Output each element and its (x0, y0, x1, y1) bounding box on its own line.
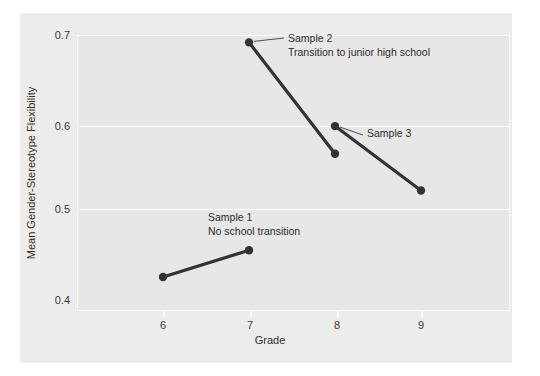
annotation-sample-3-title: Sample 3 (367, 127, 411, 141)
annotation-sample-2-subtitle: Transition to junior high school (288, 46, 430, 60)
annotation-sample-1-subtitle: No school transition (208, 225, 300, 239)
y-tick-label-0-4: 0.4 (18, 295, 70, 306)
x-tick-label-8: 8 (317, 320, 357, 331)
plot-area (77, 35, 510, 311)
chart-figure: 0.7 0.6 0.5 0.4 Mean Gender-Stereotype F… (0, 0, 540, 376)
y-tick-label-0-7: 0.7 (18, 30, 70, 41)
annotation-sample-3: Sample 3 (367, 127, 411, 141)
y-axis-title: Mean Gender-Stereotype Flexibility (25, 87, 37, 259)
annotation-sample-1-title: Sample 1 (208, 211, 300, 225)
x-tick-label-9: 9 (401, 320, 441, 331)
annotation-sample-2: Sample 2 Transition to junior high schoo… (288, 32, 430, 59)
x-tick-label-6: 6 (143, 320, 183, 331)
annotation-sample-2-title: Sample 2 (288, 32, 430, 46)
x-tick-mark-7 (250, 311, 252, 317)
annotation-sample-1: Sample 1 No school transition (208, 211, 300, 238)
gridline-0-6 (78, 126, 509, 128)
x-tick-mark-9 (421, 311, 423, 317)
x-tick-label-7: 7 (230, 320, 270, 331)
gridline-0-5 (78, 209, 509, 211)
x-tick-mark-8 (337, 311, 339, 317)
x-tick-mark-6 (163, 311, 165, 317)
x-axis-title: Grade (0, 334, 540, 346)
